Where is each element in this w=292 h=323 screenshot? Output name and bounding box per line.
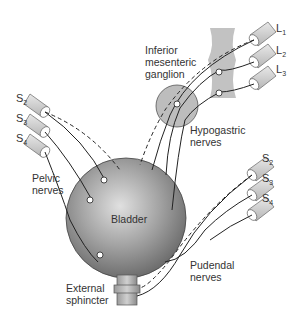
- right-sacral-roots: [245, 157, 274, 222]
- label-bladder: Bladder: [111, 213, 147, 225]
- external-sphincter-shape: [114, 275, 140, 305]
- label-right-S3: S3: [262, 172, 273, 186]
- label-line: mesenteric: [145, 56, 196, 68]
- root-num: 4: [23, 139, 27, 146]
- label-left-S4: S4: [16, 132, 27, 146]
- label-right-S2: S2: [262, 152, 273, 166]
- root-num: 3: [23, 119, 27, 126]
- label-line: Hypogastric: [190, 124, 245, 136]
- label-line: ganglion: [145, 68, 196, 80]
- root-num: 4: [269, 199, 273, 206]
- label-line: External: [66, 282, 109, 294]
- label-left-S2: S2: [16, 92, 27, 106]
- sympathetic-chain: [208, 28, 236, 98]
- label-inferior-mesenteric-ganglion: Inferior mesenteric ganglion: [145, 44, 196, 80]
- label-line: nerves: [190, 271, 234, 283]
- label-L3: L3: [276, 63, 286, 77]
- root-num: 3: [282, 70, 286, 77]
- root-num: 2: [269, 159, 273, 166]
- root-num: 2: [282, 51, 286, 58]
- label-line: nerves: [32, 184, 64, 196]
- left-sacral-roots: [24, 94, 52, 159]
- label-line: Pelvic: [32, 172, 64, 184]
- label-L2: L2: [276, 44, 286, 58]
- root-num: 3: [269, 179, 273, 186]
- label-line: Pudendal: [190, 259, 234, 271]
- label-L1: L1: [276, 22, 286, 36]
- label-pudendal-nerves: Pudendal nerves: [190, 259, 234, 283]
- label-line: Inferior: [145, 44, 196, 56]
- root-num: 1: [282, 29, 286, 36]
- lumbar-roots: [247, 22, 276, 91]
- root-num: 2: [23, 99, 27, 106]
- label-line: sphincter: [66, 294, 109, 306]
- label-pelvic-nerves: Pelvic nerves: [32, 172, 64, 196]
- label-external-sphincter: External sphincter: [66, 282, 109, 306]
- label-hypogastric-nerves: Hypogastric nerves: [190, 124, 245, 148]
- label-right-S4: S4: [262, 192, 273, 206]
- label-line: nerves: [190, 136, 245, 148]
- label-left-S3: S3: [16, 112, 27, 126]
